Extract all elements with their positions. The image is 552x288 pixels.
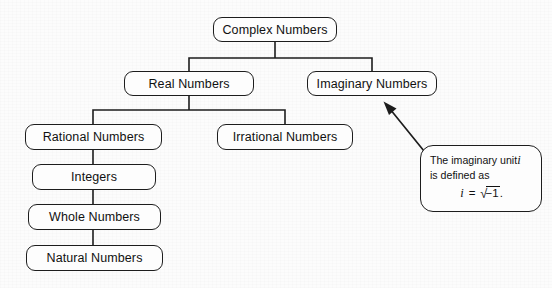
- callout-text-line-1: The imaginary uniti: [430, 153, 533, 168]
- formula-period: .: [500, 187, 503, 199]
- callout-line1-variable: i: [517, 153, 520, 167]
- callout-pointer-arrow: [384, 102, 425, 152]
- node-real-numbers[interactable]: Real Numbers: [124, 71, 254, 96]
- callout-text-line-2: is defined as: [430, 168, 533, 183]
- callout-line1-text: The imaginary unit: [430, 154, 517, 166]
- node-complex-numbers[interactable]: Complex Numbers: [213, 17, 337, 42]
- node-integers[interactable]: Integers: [32, 164, 156, 190]
- node-imaginary-numbers[interactable]: Imaginary Numbers: [307, 71, 437, 96]
- node-natural-numbers-label: Natural Numbers: [47, 251, 143, 265]
- imaginary-unit-formula: i=√−1.: [430, 185, 533, 202]
- node-complex-numbers-label: Complex Numbers: [222, 23, 327, 37]
- node-irrational-numbers[interactable]: Irrational Numbers: [217, 124, 353, 150]
- node-irrational-numbers-label: Irrational Numbers: [233, 130, 338, 144]
- formula-square-root: √−1: [480, 185, 499, 202]
- node-real-numbers-label: Real Numbers: [148, 77, 229, 91]
- number-classification-diagram: Complex Numbers Real Numbers Imaginary N…: [0, 0, 552, 288]
- connector-complex-to-level2: [189, 42, 372, 71]
- node-imaginary-numbers-label: Imaginary Numbers: [317, 77, 428, 91]
- formula-radicand: −1: [486, 186, 500, 199]
- node-rational-numbers[interactable]: Rational Numbers: [25, 124, 162, 150]
- node-whole-numbers-label: Whole Numbers: [49, 210, 140, 224]
- node-natural-numbers[interactable]: Natural Numbers: [26, 245, 163, 271]
- connector-real-to-level3: [93, 96, 285, 124]
- node-integers-label: Integers: [71, 170, 117, 184]
- node-whole-numbers[interactable]: Whole Numbers: [28, 204, 161, 230]
- imaginary-unit-callout: The imaginary uniti is defined as i=√−1.: [420, 145, 542, 212]
- formula-equals-sign: =: [464, 187, 481, 199]
- node-rational-numbers-label: Rational Numbers: [43, 130, 145, 144]
